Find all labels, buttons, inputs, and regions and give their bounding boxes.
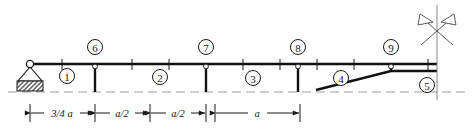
span-5-label: 5 [424, 80, 430, 92]
node-9-label: 9 [388, 42, 394, 54]
symmetry-flag-left-icon [418, 14, 433, 25]
node-7: 7 [199, 40, 214, 55]
node-6-label: 6 [92, 42, 98, 54]
node-8: 8 [291, 40, 306, 55]
span-1-label: 1 [64, 71, 70, 83]
pin-hinge-circle [26, 60, 33, 67]
span-4: 4 [334, 71, 349, 86]
dimension-label-4: a [254, 108, 259, 119]
span-3-label: 3 [250, 73, 256, 85]
node-6: 6 [88, 40, 103, 55]
beam-diagram-figure: 6 7 8 9 1 2 [0, 0, 473, 129]
span-2-label: 2 [157, 72, 163, 84]
node-9: 9 [384, 40, 399, 55]
node-7-label: 7 [203, 42, 209, 54]
span-labels: 1 2 3 4 5 [60, 69, 435, 93]
span-1: 1 [60, 69, 75, 84]
dimension-label-1: 3/4 a [50, 108, 72, 119]
span-2: 2 [153, 70, 168, 85]
span-3: 3 [246, 71, 261, 86]
span-5: 5 [420, 78, 435, 93]
symmetry-flag-right-icon [441, 14, 456, 25]
dimension-label-2: a/2 [115, 108, 129, 119]
span-4-label: 4 [338, 73, 344, 85]
dimension-label-3: a/2 [171, 108, 185, 119]
diagram-canvas: 6 7 8 9 1 2 [0, 0, 473, 129]
node-labels: 6 7 8 9 [88, 40, 399, 55]
support-hatched-footing [17, 81, 43, 91]
node-8-label: 8 [295, 42, 301, 54]
